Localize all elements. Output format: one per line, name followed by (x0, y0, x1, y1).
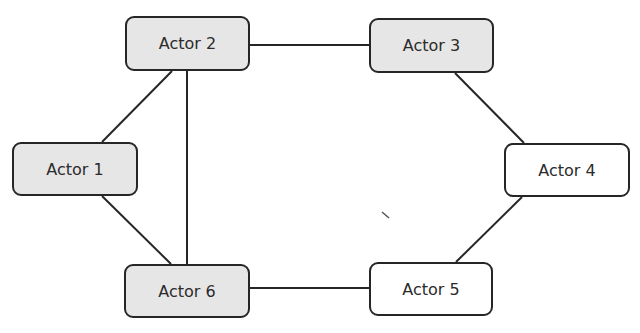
node-label: Actor 5 (402, 280, 459, 299)
edge-actor1-actor2 (102, 71, 172, 142)
node-label: Actor 3 (403, 36, 460, 55)
node-label: Actor 6 (158, 282, 215, 301)
node-actor-6: Actor 6 (124, 264, 250, 318)
node-actor-4: Actor 4 (504, 143, 630, 197)
edge-actor4-actor5 (456, 197, 522, 262)
node-actor-2: Actor 2 (125, 16, 250, 71)
node-actor-5: Actor 5 (369, 262, 493, 316)
node-label: Actor 1 (46, 160, 103, 179)
edge-actor6-actor1 (102, 196, 171, 264)
node-label: Actor 4 (538, 161, 595, 180)
node-actor-1: Actor 1 (12, 142, 138, 196)
node-actor-3: Actor 3 (369, 18, 494, 73)
edge-actor3-actor4 (455, 73, 524, 143)
node-label: Actor 2 (159, 34, 216, 53)
stray-mark (382, 212, 389, 218)
actor-network-diagram: Actor 1 Actor 2 Actor 3 Actor 4 Actor 5 … (0, 0, 640, 333)
